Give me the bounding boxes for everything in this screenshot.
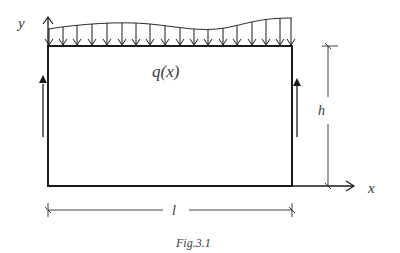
left-shear-arrow: [39, 75, 47, 137]
y-axis-label: y: [16, 15, 25, 31]
beam-diagram: y x q(x) h l Fig.3.1: [0, 0, 400, 253]
right-shear-arrow: [293, 78, 301, 137]
x-axis-label: x: [367, 180, 375, 196]
right-shear-arrowhead-icon: [293, 78, 301, 86]
load-arrows: [45, 18, 295, 45]
load-curve: [48, 18, 292, 29]
load-label: q(x): [152, 62, 180, 81]
figure-caption: Fig.3.1: [175, 236, 211, 250]
height-label: h: [318, 103, 325, 118]
left-shear-arrowhead-icon: [39, 75, 47, 83]
length-label: l: [172, 203, 176, 218]
x-axis: [292, 181, 354, 191]
length-dimension: [45, 203, 295, 217]
